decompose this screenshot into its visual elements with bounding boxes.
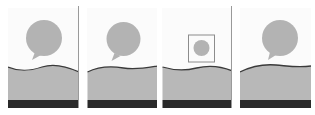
panel-1 — [8, 8, 79, 108]
speech-bubble-landscape-icon — [240, 8, 311, 108]
speech-bubble-landscape-icon — [87, 8, 157, 108]
framed-circle-landscape-icon — [162, 8, 232, 108]
panel-divider — [231, 6, 232, 108]
panel-divider — [78, 6, 79, 108]
speech-bubble-landscape-icon — [8, 8, 79, 108]
panel-4 — [240, 8, 311, 108]
panel-2 — [87, 8, 157, 108]
panel-3 — [162, 8, 232, 108]
